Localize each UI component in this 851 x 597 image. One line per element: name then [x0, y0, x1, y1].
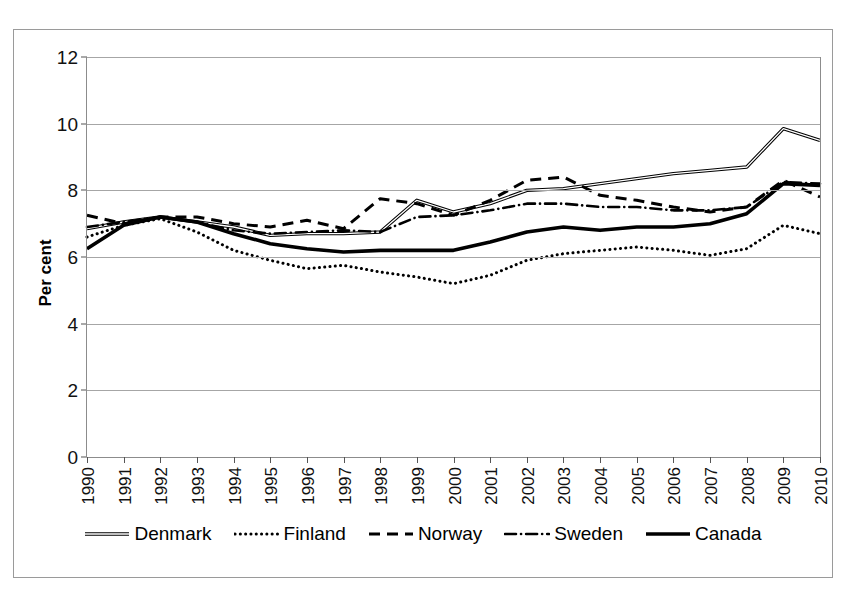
- x-tick-mark-2010: [820, 457, 821, 463]
- plot-area: 0246810121990199119921993199419951996199…: [87, 57, 820, 457]
- x-tick-label-2007: 2007: [703, 467, 720, 505]
- x-tick-label-1990: 1990: [80, 467, 97, 505]
- x-tick-label-2005: 2005: [629, 467, 646, 505]
- x-tick-mark-2006: [673, 457, 674, 463]
- x-tick-mark-2004: [600, 457, 601, 463]
- x-tick-mark-1990: [87, 457, 88, 463]
- x-tick-label-1993: 1993: [189, 467, 206, 505]
- x-tick-mark-1997: [344, 457, 345, 463]
- x-tick-label-2004: 2004: [593, 467, 610, 505]
- series-canvas: [87, 57, 822, 459]
- x-tick-mark-1994: [234, 457, 235, 463]
- figure-page: Per cent 0246810121990199119921993199419…: [0, 0, 851, 597]
- gridline-y-2: [87, 390, 820, 391]
- y-axis-line: [86, 57, 87, 457]
- x-tick-mark-2003: [563, 457, 564, 463]
- x-tick-mark-2000: [454, 457, 455, 463]
- y-tick-label-2: 2: [67, 381, 78, 400]
- x-tick-label-1999: 1999: [409, 467, 426, 505]
- gridline-y-8: [87, 190, 820, 191]
- x-tick-label-1994: 1994: [226, 467, 243, 505]
- x-tick-label-2006: 2006: [666, 467, 683, 505]
- y-tick-label-6: 6: [67, 248, 78, 267]
- x-tick-label-2003: 2003: [556, 467, 573, 505]
- series-denmark: [87, 129, 820, 236]
- x-tick-mark-1998: [380, 457, 381, 463]
- y-tick-label-8: 8: [67, 181, 78, 200]
- x-tick-label-2001: 2001: [483, 467, 500, 505]
- x-tick-mark-1991: [124, 457, 125, 463]
- x-tick-mark-2009: [783, 457, 784, 463]
- x-tick-mark-1995: [270, 457, 271, 463]
- y-tick-label-12: 12: [57, 48, 78, 67]
- x-tick-label-2008: 2008: [739, 467, 756, 505]
- x-tick-label-1992: 1992: [153, 467, 170, 505]
- x-tick-label-2010: 2010: [813, 467, 830, 505]
- series-denmark-outer: [87, 129, 820, 236]
- x-tick-label-1995: 1995: [263, 467, 280, 505]
- gridline-y-10: [87, 124, 820, 125]
- y-tick-label-4: 4: [67, 314, 78, 333]
- x-tick-label-2000: 2000: [446, 467, 463, 505]
- x-tick-label-2009: 2009: [776, 467, 793, 505]
- x-tick-label-1991: 1991: [116, 467, 133, 505]
- x-tick-label-1998: 1998: [373, 467, 390, 505]
- x-tick-mark-2007: [710, 457, 711, 463]
- clipped-figure-title: [0, 0, 851, 12]
- x-tick-mark-2001: [490, 457, 491, 463]
- x-tick-mark-1996: [307, 457, 308, 463]
- x-tick-mark-2002: [527, 457, 528, 463]
- x-tick-label-2002: 2002: [519, 467, 536, 505]
- x-tick-mark-1992: [160, 457, 161, 463]
- x-tick-mark-2008: [747, 457, 748, 463]
- chart-frame: Per cent 0246810121990199119921993199419…: [13, 29, 833, 578]
- gridline-y-4: [87, 324, 820, 325]
- x-tick-mark-1999: [417, 457, 418, 463]
- x-tick-label-1997: 1997: [336, 467, 353, 505]
- y-axis-title: Per cent: [36, 239, 56, 306]
- gridline-y-6: [87, 257, 820, 258]
- gridline-y-12: [87, 57, 820, 58]
- y-tick-label-0: 0: [67, 448, 78, 467]
- plot-right-edge: [820, 57, 821, 457]
- x-tick-label-1996: 1996: [299, 467, 316, 505]
- x-tick-mark-2005: [637, 457, 638, 463]
- series-denmark-core: [87, 129, 820, 236]
- x-tick-mark-1993: [197, 457, 198, 463]
- y-tick-label-10: 10: [57, 114, 78, 133]
